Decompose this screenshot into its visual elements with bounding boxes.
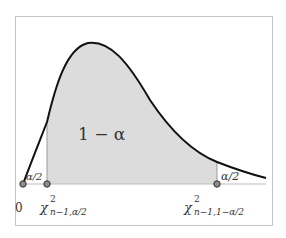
lower-critical-point — [44, 181, 50, 187]
upper-critical-point — [214, 181, 220, 187]
center-region-label: 1 − α — [78, 124, 126, 144]
origin-label: 0 — [15, 201, 23, 215]
lower-critical-symbol: χ — [39, 200, 49, 215]
diagram-svg: 1 − α α/2 α/2 0 χ 2 n−1,α/2 χ 2 n−1,1−α/… — [0, 0, 286, 238]
lower-critical-label: χ 2 n−1,α/2 — [39, 194, 87, 217]
upper-critical-symbol: χ — [183, 200, 193, 215]
left-tail-label: α/2 — [26, 171, 42, 182]
central-region-fill — [47, 43, 217, 184]
chi-square-diagram: 1 − α α/2 α/2 0 χ 2 n−1,α/2 χ 2 n−1,1−α/… — [0, 0, 286, 238]
upper-critical-label: χ 2 n−1,1−α/2 — [183, 194, 244, 217]
lower-critical-superscript: 2 — [50, 194, 56, 204]
right-tail-label: α/2 — [221, 170, 239, 183]
lower-critical-subscript: n−1,α/2 — [50, 207, 87, 217]
upper-critical-superscript: 2 — [194, 194, 200, 204]
upper-critical-subscript: n−1,1−α/2 — [194, 207, 244, 217]
